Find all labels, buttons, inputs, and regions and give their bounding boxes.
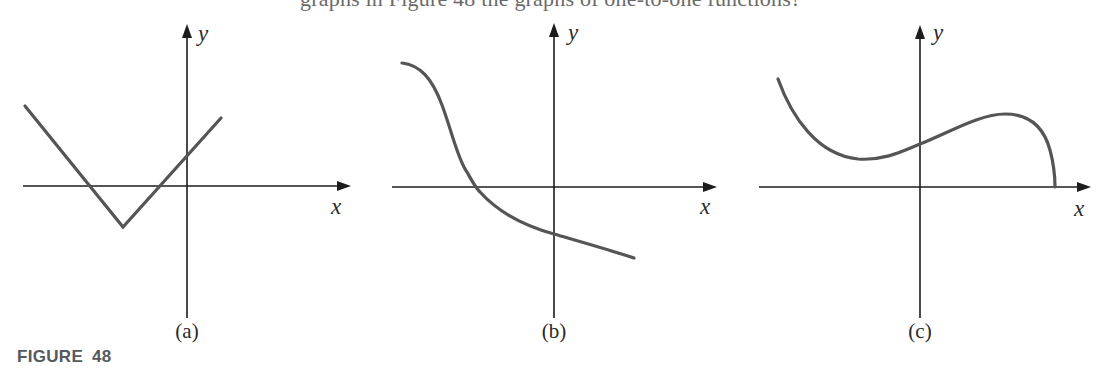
graph-curve-b [402, 63, 634, 258]
panel-label-b: (b) [542, 319, 567, 343]
y-axis-label: y [931, 20, 944, 45]
x-axis-arrow-icon [337, 181, 351, 191]
x-axis-label: x [1073, 196, 1085, 221]
x-axis-label: x [699, 194, 711, 219]
figure-caption: FIGURE 48 [17, 347, 112, 367]
x-axis-arrow-icon [1077, 182, 1091, 192]
y-axis-arrow-icon [915, 25, 925, 39]
y-axis-label: y [196, 21, 209, 46]
panel-label-a: (a) [175, 319, 198, 343]
y-axis-label: y [566, 20, 579, 45]
panel-label-c: (c) [908, 319, 931, 343]
graph-curve-c [778, 79, 1055, 187]
panel-a: x y (a) [23, 21, 351, 343]
figure-48: x y (a) x y (b) x y (c) [0, 0, 1110, 370]
graph-curve-a [25, 106, 221, 227]
x-axis-arrow-icon [703, 182, 717, 192]
panel-b: x y (b) [392, 20, 717, 343]
y-axis-arrow-icon [182, 24, 192, 38]
y-axis-arrow-icon [549, 23, 559, 37]
x-axis-label: x [330, 194, 342, 219]
panel-c: x y (c) [759, 20, 1091, 343]
